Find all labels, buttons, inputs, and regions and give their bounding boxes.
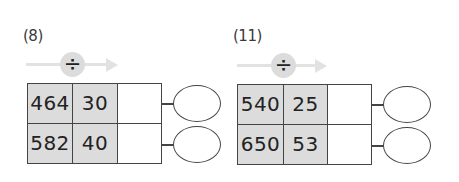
operator-symbol: ÷ [275,55,293,76]
problem-11: (11) ÷ 540 25 650 53 [0,0,459,182]
quotient-answer-box[interactable] [328,125,371,165]
division-icon: ÷ [271,53,296,78]
divisor-cell: 25 [284,85,328,125]
division-table: 540 25 650 53 [237,84,372,165]
dividend-cell: 540 [238,85,284,125]
quotient-answer-box[interactable] [328,85,371,125]
dividend-cell: 650 [238,125,284,165]
problem-label: (11) [233,27,262,45]
arrow-right-icon [315,59,327,73]
remainder-answer-oval[interactable] [383,86,431,123]
divisor-cell: 53 [284,125,328,165]
remainder-answer-oval[interactable] [383,127,431,164]
